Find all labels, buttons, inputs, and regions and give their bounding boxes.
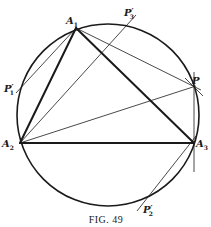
figure-49-diagram: A1A2A3PP′1P′2P′3 FIG. 49 (0, 0, 211, 227)
label-a1: A1 (65, 15, 78, 28)
figure-caption: FIG. 49 (89, 214, 124, 225)
construction-line (76, 28, 201, 90)
label-p: P (191, 75, 200, 86)
triangle-side-a1-a3 (76, 28, 194, 143)
label-a2: A2 (1, 138, 14, 151)
triangle-side-a1-a2 (20, 28, 76, 143)
point-labels: A1A2A3PP′1P′2P′3 (1, 5, 208, 217)
construction-line (16, 28, 76, 93)
label-p1p: P′1 (3, 81, 14, 96)
circumcircle (17, 24, 199, 206)
label-p2p: P′2 (142, 202, 153, 217)
label-a3: A3 (195, 138, 208, 151)
label-p3p: P′3 (123, 5, 134, 20)
construction-line (20, 86, 196, 143)
construction-line (137, 136, 196, 211)
geometry (16, 15, 203, 211)
